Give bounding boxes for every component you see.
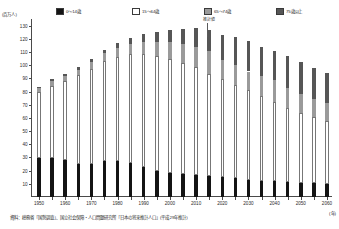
bar-segment-3 [181,29,185,44]
x-tick-label: 1950 [34,201,44,206]
bar-2040 [273,51,277,197]
bar-segment-0 [129,163,133,197]
source-note: 資料：総務省「国勢調査」、国立社会保障・人口問題研究所「日本の将来推計人口」(平… [10,215,188,221]
x-tick [248,197,249,200]
bar-segment-1 [234,85,238,179]
bar-segment-2 [103,53,107,61]
bar-segment-0 [221,177,225,197]
y-tick-label: 120 [20,36,28,41]
bar-segment-0 [234,178,238,197]
bar-segment-0 [37,158,41,197]
bar-segment-2 [181,44,185,63]
bar-segment-1 [155,56,159,171]
x-tick-label: 2060 [322,201,332,206]
x-tick [314,197,315,200]
plot-area: 102030405060708090100110120130 推計値 [31,19,332,197]
bar-segment-2 [155,42,159,56]
bar-segment-2 [90,62,94,69]
bar-2050 [299,62,303,197]
bar-segment-2 [129,44,133,54]
bar-segment-0 [90,164,94,197]
bar-segment-0 [260,181,264,197]
forecast-boundary-rule [207,23,208,37]
bar-segment-3 [207,30,211,51]
bar-segment-1 [50,86,54,158]
y-tick-label: 70 [22,102,27,107]
x-tick [157,197,158,200]
bar-segment-3 [260,47,264,77]
bar-segment-1 [221,79,225,177]
bar-segment-3 [77,67,81,70]
legend-label: 65〜74歳 [214,9,231,14]
x-tick [91,197,92,200]
x-tick [65,197,66,200]
chart-legend: 0〜14歳15〜64歳65〜74歳75歳以上 [56,6,336,17]
x-tick [327,197,328,200]
x-tick [170,197,171,200]
bar-segment-0 [273,181,277,197]
x-tick [131,197,132,200]
bar-segment-2 [142,42,146,54]
x-tick-label: 2050 [296,201,306,206]
bar-segment-3 [142,34,146,42]
x-tick [196,197,197,200]
bar-segment-0 [299,183,303,197]
x-tick [78,197,79,200]
bar-segment-2 [247,72,251,91]
bar-2060 [325,73,329,197]
bar-segment-3 [103,50,107,54]
bar-segment-2 [221,60,225,80]
bar-segment-2 [194,47,198,67]
bar-segment-3 [273,51,277,81]
legend-item-3: 75歳以上 [276,6,302,17]
bar-2015 [207,30,211,197]
x-tick [275,197,276,200]
bar-2020 [221,35,225,197]
legend-swatch-icon [276,8,284,15]
bar-segment-1 [168,59,172,173]
legend-item-0: 0〜14歳 [56,6,81,17]
x-tick [209,197,210,200]
bar-segment-0 [286,182,290,197]
bar-segment-2 [50,81,54,85]
bar-segment-0 [181,174,185,197]
bar-segment-2 [325,103,329,121]
y-tick-label: 100 [20,63,28,68]
bar-1990 [142,34,146,197]
bar-segment-3 [155,32,159,41]
bar-segment-2 [299,94,303,113]
bar-segment-3 [234,37,238,66]
bar-2010 [194,28,198,197]
legend-swatch-icon [56,8,64,15]
y-axis-unit-label: (百万人) [2,11,17,17]
x-tick-label: 2030 [243,201,253,206]
bar-segment-1 [207,74,211,176]
bar-segment-2 [116,48,120,57]
y-tick-label: 60 [22,115,27,120]
bar-segment-1 [312,117,316,183]
bar-segment-3 [129,38,133,44]
bar-segment-2 [273,80,277,102]
bar-segment-2 [286,88,290,109]
x-tick-label: 1970 [86,201,96,206]
forecast-annotation-label: 推計値 [200,18,218,23]
bar-segment-0 [312,183,316,197]
bar-series-group [31,19,332,197]
bar-segment-1 [129,54,133,163]
bar-1970 [90,59,94,197]
bar-2000 [168,30,172,197]
x-tick-label: 2000 [165,201,175,206]
bar-segment-1 [286,108,290,182]
bar-segment-0 [77,164,81,197]
bar-segment-0 [325,184,329,197]
bar-1965 [77,67,81,197]
bar-segment-3 [37,87,41,88]
x-tick-label: 1990 [139,201,149,206]
bar-segment-0 [168,173,172,197]
bar-segment-3 [312,68,316,100]
bar-1960 [63,74,67,197]
x-tick [183,197,184,200]
y-tick-label: 40 [22,142,27,147]
bar-segment-3 [299,62,303,94]
population-projection-chart: 0〜14歳15〜64歳65〜74歳75歳以上 (百万人) (年) 1020304… [0,0,339,229]
